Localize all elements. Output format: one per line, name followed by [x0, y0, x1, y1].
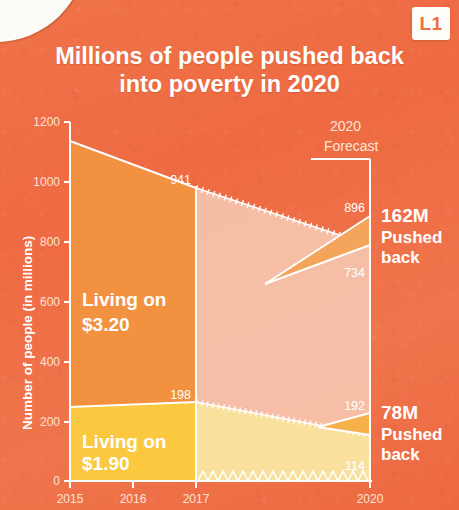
value-label-198: 198: [170, 388, 191, 402]
series-320-label-line1: Living on: [82, 289, 166, 310]
x-tick-2016: 2016: [120, 492, 147, 506]
callout-320-value: 162M: [381, 205, 429, 226]
callout-190-line2: Pushed: [381, 425, 442, 444]
x-tick-2017: 2017: [183, 492, 210, 506]
y-tick-600: 600: [40, 295, 60, 309]
forecast-label-text: Forecast: [324, 138, 379, 154]
infographic-poster: L1 Millions of people pushed back into p…: [0, 0, 459, 510]
y-axis-title: Number of people (in millions): [20, 236, 35, 430]
value-label-192: 192: [344, 399, 365, 413]
y-tick-400: 400: [40, 355, 60, 369]
x-tick-2020: 2020: [357, 492, 384, 506]
callout-190-value: 78M: [381, 402, 418, 423]
y-tick-200: 200: [40, 415, 60, 429]
series-320-forecast-area: [196, 188, 370, 435]
callout-320-line2: Pushed: [381, 228, 442, 247]
value-label-896: 896: [344, 201, 365, 215]
series-190-label-line2: $1.90: [82, 453, 130, 474]
value-label-941: 941: [170, 173, 191, 187]
x-tick-2015: 2015: [57, 492, 84, 506]
y-tick-800: 800: [40, 235, 60, 249]
y-tick-0: 0: [53, 474, 60, 488]
callout-320-line3: back: [381, 248, 420, 267]
series-320-label-line2: $3.20: [82, 314, 130, 335]
value-label-114: 114: [345, 459, 365, 473]
series-190-label-line1: Living on: [82, 431, 166, 452]
poverty-area-chart: 1200 1000 800 600 400 200 0 2015 2016 20…: [0, 0, 459, 510]
callout-190-line3: back: [381, 445, 420, 464]
forecast-label-year: 2020: [330, 118, 361, 134]
y-tick-1000: 1000: [33, 175, 60, 189]
value-label-734: 734: [344, 266, 365, 280]
y-tick-1200: 1200: [33, 115, 60, 129]
